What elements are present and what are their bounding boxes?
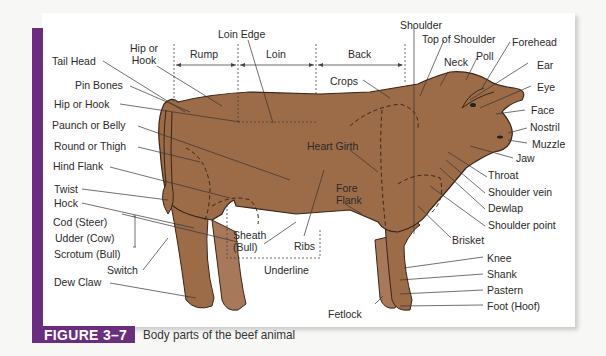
- label-scrotum: Scrotum (Bull): [54, 248, 121, 260]
- figure-caption: Body parts of the beef animal: [143, 327, 295, 342]
- label-hip-or-hook-top: Hip or Hook: [130, 42, 158, 66]
- label-shoulder-point: Shoulder point: [488, 219, 556, 231]
- label-switch: Switch: [107, 264, 138, 276]
- label-hip-or-hook: Hip or Hook: [54, 98, 109, 110]
- label-shank: Shank: [487, 268, 517, 280]
- label-foot: Foot (Hoof): [487, 300, 540, 312]
- label-fetlock: Fetlock: [328, 308, 362, 320]
- label-pastern: Pastern: [487, 284, 523, 296]
- label-twist: Twist: [54, 183, 78, 195]
- label-underline: Underline: [264, 264, 309, 276]
- label-neck: Neck: [444, 56, 468, 68]
- label-fore-flank: Fore Flank: [336, 182, 362, 206]
- label-tail-head: Tail Head: [52, 55, 96, 67]
- label-paunch: Paunch or Belly: [52, 119, 126, 131]
- label-shoulder: Shoulder: [400, 19, 442, 31]
- figure-number: FIGURE 3–7: [32, 326, 135, 343]
- region-loin: Loin: [266, 48, 286, 60]
- label-ribs: Ribs: [294, 240, 315, 252]
- label-shoulder-vein: Shoulder vein: [488, 186, 552, 198]
- label-sheath: Sheath (Bull): [233, 229, 266, 253]
- label-knee: Knee: [487, 252, 512, 264]
- label-loin-edge: Loin Edge: [218, 28, 265, 40]
- region-rump: Rump: [190, 48, 218, 60]
- label-brisket: Brisket: [452, 234, 484, 246]
- label-crops: Crops: [330, 75, 358, 87]
- label-hind-flank: Hind Flank: [53, 160, 103, 172]
- label-nostril: Nostril: [530, 121, 560, 133]
- label-hock: Hock: [54, 197, 78, 209]
- label-top-of-shoulder: Top of Shoulder: [422, 33, 496, 45]
- region-back: Back: [348, 48, 371, 60]
- label-muzzle: Muzzle: [532, 138, 565, 150]
- label-ear: Ear: [537, 59, 553, 71]
- label-cod: Cod (Steer): [53, 216, 107, 228]
- label-dew-claw: Dew Claw: [54, 276, 101, 288]
- label-udder: Udder (Cow): [55, 232, 115, 244]
- label-jaw: Jaw: [516, 152, 535, 164]
- label-eye: Eye: [537, 81, 555, 93]
- label-throat: Throat: [488, 169, 518, 181]
- label-dewlap: Dewlap: [488, 202, 523, 214]
- label-pin-bones: Pin Bones: [75, 79, 123, 91]
- label-face: Face: [531, 104, 554, 116]
- label-round: Round or Thigh: [54, 140, 126, 152]
- label-poll: Poll: [476, 50, 494, 62]
- label-heart-girth: Heart Girth: [307, 140, 358, 152]
- label-forehead: Forehead: [512, 36, 557, 48]
